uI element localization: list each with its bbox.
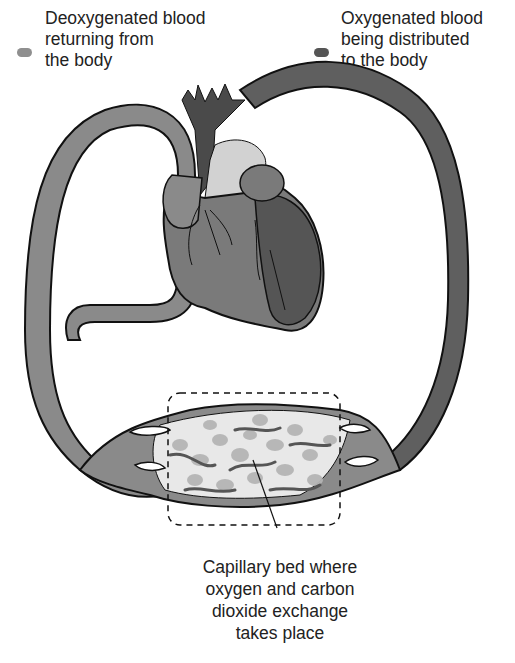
right-atrium (163, 175, 202, 228)
capillary-bed-caption: Capillary bed where oxygen and carbon di… (170, 556, 390, 644)
left-atrium (240, 165, 284, 201)
